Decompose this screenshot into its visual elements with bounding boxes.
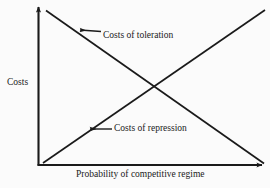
- y-axis-label: Costs: [7, 78, 28, 88]
- costs-of-repression-label: Costs of repression: [114, 124, 187, 134]
- x-axis-label: Probability of competitive regime: [76, 170, 204, 180]
- figure-container: Costs Probability of competitive regime …: [0, 0, 270, 188]
- plot-canvas: [0, 0, 270, 188]
- costs-of-toleration-label: Costs of toleration: [103, 31, 173, 41]
- toleration-pointer-arrow-icon: [80, 30, 101, 32]
